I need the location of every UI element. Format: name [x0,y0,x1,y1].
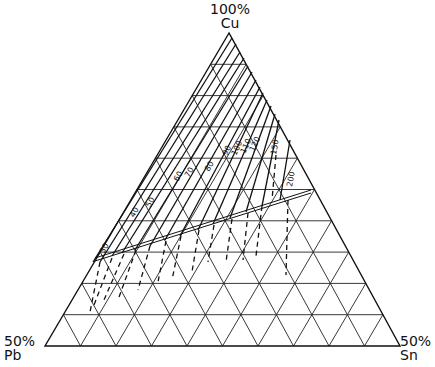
grid-line [63,315,80,346]
label-200: 200 [285,171,297,188]
grid-line [365,315,383,346]
grid-line [211,64,365,346]
grid-line [223,190,315,347]
label-50: 50 [144,196,157,209]
label-40: 40 [128,206,141,219]
ternary-diagram: 30 40 50 60 70 80 90 100 110 120 150 200 [0,0,435,367]
label-150: 150 [269,139,281,156]
